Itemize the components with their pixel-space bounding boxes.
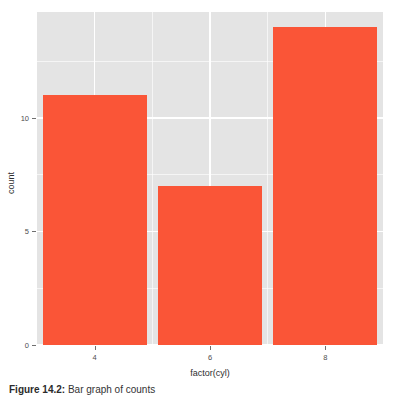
- x-tick-label: 8: [323, 353, 327, 362]
- y-tick-label: 0: [1, 341, 29, 350]
- figure-container: 0510 468 factor(cyl) count Figure 14.2: …: [0, 0, 395, 395]
- x-tick-mark: [210, 346, 211, 350]
- y-tick-label: 5: [1, 227, 29, 236]
- caption-label: Figure 14.2:: [9, 384, 65, 395]
- x-axis-title: factor(cyl): [37, 368, 383, 378]
- figure-caption: Figure 14.2: Bar graph of counts: [9, 384, 339, 395]
- caption-text: Bar graph of counts: [68, 384, 155, 395]
- y-tick-label: 10: [1, 113, 29, 122]
- y-axis-title: count: [6, 172, 16, 194]
- bar-4[interactable]: [43, 95, 147, 345]
- plot-panel: [37, 12, 383, 345]
- y-tick-mark: [32, 345, 36, 346]
- gridline-minor-vertical: [267, 12, 268, 345]
- bar-8[interactable]: [273, 27, 377, 345]
- y-tick-mark: [32, 231, 36, 232]
- x-tick-label: 4: [93, 353, 97, 362]
- x-tick-mark: [325, 346, 326, 350]
- bar-6[interactable]: [158, 186, 262, 345]
- x-tick-mark: [95, 346, 96, 350]
- y-tick-mark: [32, 118, 36, 119]
- x-tick-label: 6: [208, 353, 212, 362]
- gridline-minor-vertical: [152, 12, 153, 345]
